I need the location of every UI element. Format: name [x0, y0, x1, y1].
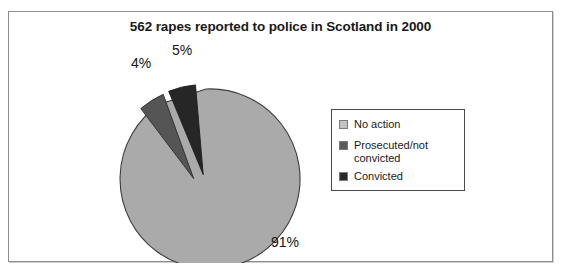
chart-frame: 562 rapes reported to police in Scotland… [8, 11, 553, 262]
pie-chart: 4% 5% 91% [9, 12, 554, 263]
pie-svg [9, 12, 554, 263]
legend-swatch-icon [339, 172, 348, 181]
legend-item-label: Convicted [354, 170, 403, 183]
pie-value-label-no-action: 91% [271, 234, 299, 250]
pie-value-label-convicted: 5% [172, 42, 192, 58]
legend-swatch-icon [339, 141, 348, 150]
legend-item-convicted[interactable]: Convicted [339, 170, 403, 183]
legend-item-no-action[interactable]: No action [339, 118, 400, 131]
legend-item-label: No action [354, 118, 400, 131]
pie-value-label-prosecuted-not-convicted: 4% [131, 55, 151, 71]
legend: No action Prosecuted/not convicted Convi… [331, 109, 465, 191]
legend-swatch-icon [339, 120, 348, 129]
legend-item-label: Prosecuted/not convicted [354, 139, 428, 164]
legend-item-prosecuted-not-convicted[interactable]: Prosecuted/not convicted [339, 139, 428, 164]
